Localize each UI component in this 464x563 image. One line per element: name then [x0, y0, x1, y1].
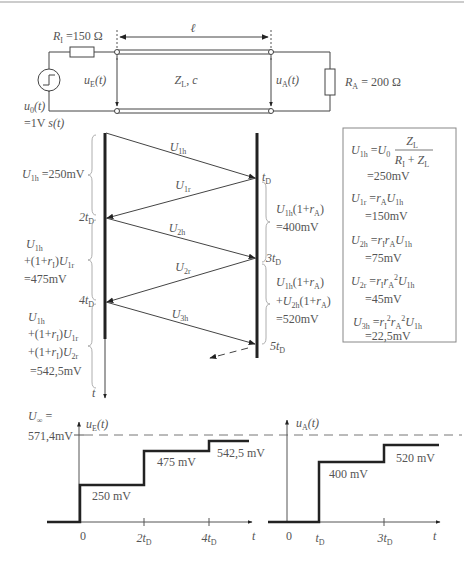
load-resistor-label: RA = 200 Ω [344, 75, 401, 91]
svg-text:U1r: U1r [175, 178, 191, 194]
svg-text:=400mV: =400mV [276, 220, 319, 234]
svg-text:+(1+rI)U1r: +(1+rI)U1r [28, 327, 79, 343]
length-label: ℓ [191, 21, 196, 35]
svg-text:250 mV: 250 mV [92, 489, 131, 503]
lattice-diagram: t U1h U1r U2h U2r U3h 2tD 4tD tD 3tD 5tD… [22, 133, 331, 400]
wave-continuation [210, 348, 248, 358]
svg-text:571,4mV: 571,4mV [28, 429, 73, 443]
svg-text:520 mV: 520 mV [396, 451, 435, 465]
svg-text:4tD: 4tD [201, 531, 216, 547]
svg-text:=520mV: =520mV [276, 312, 319, 326]
input-voltage-label: uE(t) [84, 73, 106, 89]
source-value: =1V s(t) [24, 116, 64, 130]
svg-text:475 mV: 475 mV [157, 455, 196, 469]
svg-text:=542,5mV: =542,5mV [30, 364, 82, 378]
svg-text:U1h(1+rA): U1h(1+rA) [276, 202, 324, 218]
svg-text:400 mV: 400 mV [329, 467, 368, 481]
svg-text:542,5 mV: 542,5 mV [217, 446, 265, 460]
output-voltage-label: uA(t) [276, 73, 299, 89]
wave-U2h [106, 218, 255, 258]
svg-text:U1h(1+rA): U1h(1+rA) [276, 275, 324, 291]
svg-text:3tD: 3tD [376, 531, 392, 547]
svg-text:t: t [252, 529, 256, 543]
svg-text:tD: tD [262, 170, 271, 186]
svg-text:=150mV: =150mV [365, 209, 408, 223]
line-params-label: ZL, c [175, 73, 199, 89]
svg-text:U3h: U3h [172, 307, 189, 323]
source-resistor-label: RI =150 Ω [52, 29, 103, 45]
svg-text:U1h =U0: U1h =U0 [351, 143, 390, 159]
svg-text:3tD: 3tD [265, 251, 281, 267]
source-label: u0(t) [24, 99, 45, 115]
svg-text:RI + ZL: RI + ZL [394, 153, 429, 169]
svg-text:U1h: U1h [170, 140, 187, 156]
svg-text:5tD: 5tD [270, 339, 285, 355]
chart-input-voltage: uE(t) U∞ = 571,4mV 250 mV 475 mV 542,5 m… [28, 409, 462, 547]
circuit: ℓ RI =150 Ω u0(t) =1V s(t) uE(t) uA(t) Z… [24, 21, 401, 130]
svg-text:=22,5mV: =22,5mV [365, 329, 411, 343]
svg-text:U∞ =: U∞ = [28, 409, 52, 425]
transmission-line-diagram: ℓ RI =150 Ω u0(t) =1V s(t) uE(t) uA(t) Z… [0, 0, 464, 563]
load-resistor [325, 69, 335, 95]
source-resistor [70, 47, 94, 57]
svg-text:U2h: U2h [169, 221, 186, 237]
svg-text:=250mV: =250mV [367, 169, 410, 183]
svg-text:+(1+rI)U1r: +(1+rI)U1r [24, 254, 75, 270]
svg-text:0: 0 [286, 529, 292, 543]
svg-text:=75mV: =75mV [365, 251, 402, 265]
left-annotation-1: U1h =250mV [22, 167, 85, 183]
svg-text:U1h: U1h [28, 310, 45, 326]
svg-text:+(1+rI)U2r: +(1+rI)U2r [28, 345, 79, 361]
svg-text:U2r: U2r [175, 260, 191, 276]
svg-text:U1h: U1h [26, 237, 43, 253]
wave-U3h [106, 302, 255, 344]
svg-text:tD: tD [315, 531, 324, 547]
svg-text:0: 0 [80, 529, 86, 543]
chart-output-voltage: uA(t) 400 mV 520 mV 0 tD 3tD t [268, 416, 440, 547]
svg-text:2tD: 2tD [136, 531, 151, 547]
formula-box: U1h =U0 ZL RI + ZL =250mV U1r =rAU1h =15… [343, 128, 456, 343]
svg-text:=45mV: =45mV [365, 292, 402, 306]
svg-text:+U2h(1+rA): +U2h(1+rA) [276, 294, 331, 310]
svg-text:=475mV: =475mV [24, 272, 67, 286]
svg-text:uE(t): uE(t) [86, 417, 108, 433]
svg-text:t: t [433, 529, 437, 543]
svg-text:uA(t): uA(t) [296, 416, 319, 432]
